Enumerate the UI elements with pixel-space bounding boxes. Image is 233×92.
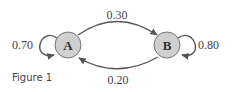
edge-label-b-to-a: 0.20	[108, 73, 129, 87]
node-a: A	[55, 32, 81, 58]
node-b-label: B	[163, 38, 172, 53]
edge-b-self-loop	[178, 35, 195, 55]
edge-label-b-self: 0.80	[198, 38, 219, 52]
edge-b-to-a	[79, 57, 158, 69]
edge-a-self-loop	[40, 35, 57, 55]
figure-caption: Figure 1	[12, 72, 52, 83]
edge-label-a-self: 0.70	[12, 38, 33, 52]
node-b: B	[154, 32, 180, 58]
edge-a-to-b	[78, 22, 157, 36]
edge-label-a-to-b: 0.30	[107, 8, 128, 22]
node-a-label: A	[63, 38, 73, 53]
